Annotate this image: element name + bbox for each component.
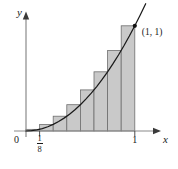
point-coordinate-label: (1, 1) xyxy=(142,28,163,38)
fraction-numerator: 1 xyxy=(37,134,43,143)
point-marker xyxy=(133,24,137,28)
plot-canvas xyxy=(0,0,178,169)
x-axis-ticks xyxy=(40,131,135,137)
riemann-rectangle xyxy=(67,105,81,131)
riemann-rectangle xyxy=(121,26,135,131)
riemann-rectangle xyxy=(80,90,94,131)
y-axis-label: y xyxy=(17,7,22,18)
x-tick-label-one: 1 xyxy=(132,135,137,145)
riemann-sum-figure: y x 0 1 1 8 (1, 1) xyxy=(0,0,178,169)
x-tick-label-one-eighth: 1 8 xyxy=(37,134,43,154)
fraction-denominator: 8 xyxy=(37,145,43,154)
x-axis-label: x xyxy=(163,134,168,145)
origin-label: 0 xyxy=(14,135,19,145)
y-axis xyxy=(23,12,29,138)
riemann-rectangles xyxy=(26,26,135,131)
